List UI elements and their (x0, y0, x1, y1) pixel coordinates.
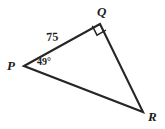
angle-measure-label-p: 49° (37, 57, 51, 67)
triangle-drawing (0, 0, 165, 129)
geometry-figure: P Q R 75 49° (0, 0, 165, 129)
vertex-label-p: P (7, 59, 15, 72)
vertex-label-q: Q (97, 5, 106, 18)
triangle-pqr-outline (24, 24, 143, 112)
side-length-label-pq: 75 (46, 30, 59, 43)
vertex-label-r: R (148, 110, 157, 123)
